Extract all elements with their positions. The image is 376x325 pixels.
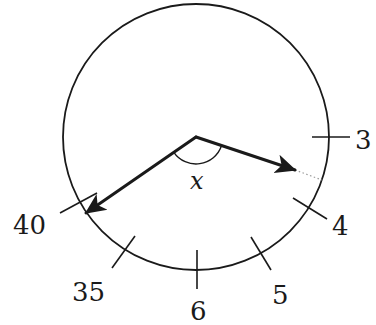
gauge-diagram: x 34563540 [0,0,376,325]
tick-mark-35 [112,236,135,268]
angle-label-x: x [190,167,204,195]
tick-label-5: 5 [272,280,289,310]
tick-label-3: 3 [355,125,372,155]
tick-marks [60,137,350,289]
dotted-extension-line [295,170,322,180]
tick-mark-4 [293,198,327,219]
right-arrow [196,137,295,170]
tick-label-4: 4 [332,211,349,241]
tick-label-40: 40 [13,210,46,240]
tick-label-35: 35 [72,277,105,307]
tick-mark-5 [251,237,271,270]
tick-label-6: 6 [190,296,207,325]
tick-labels: 34563540 [13,125,372,325]
left-arrow [86,137,196,213]
